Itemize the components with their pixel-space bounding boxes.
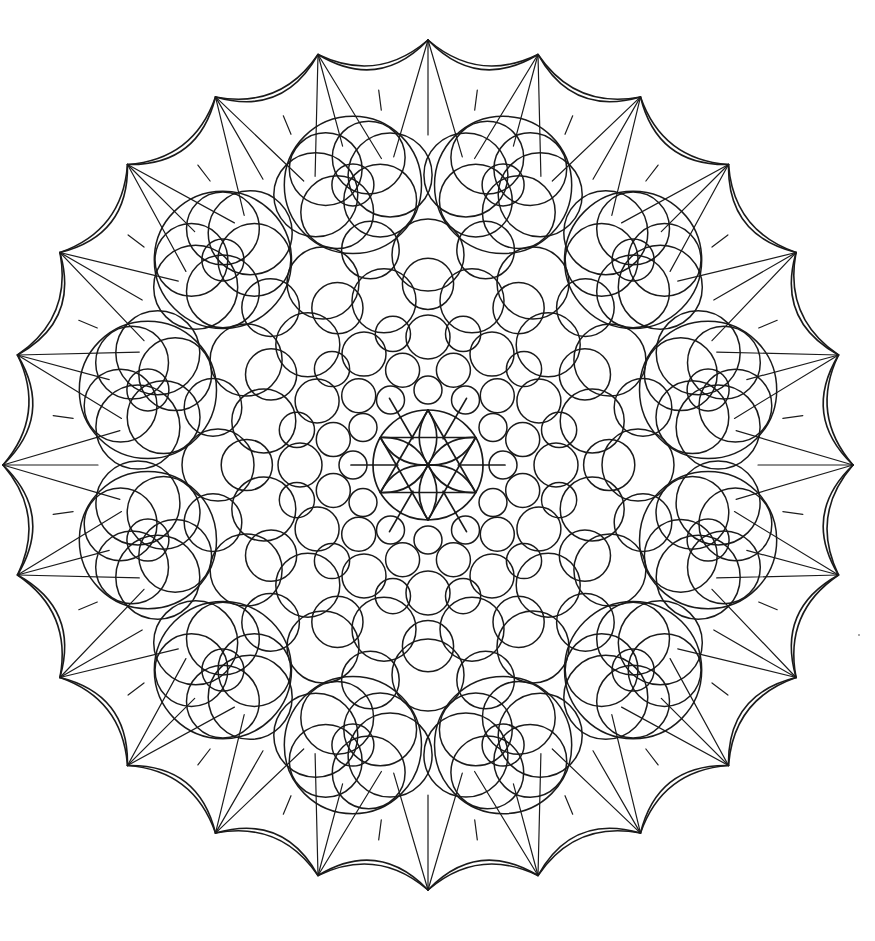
bubble-circle-secondary — [314, 351, 349, 386]
bubble-circle — [342, 554, 386, 598]
bubble-circle-secondary — [242, 594, 300, 652]
scallop-arc — [641, 97, 729, 165]
bubble-circle-secondary — [542, 483, 577, 518]
bubble-circle — [516, 313, 580, 377]
bubble-circle-secondary — [375, 579, 410, 614]
center-inner-spoke — [443, 417, 455, 438]
bubble-circle-secondary — [493, 283, 544, 334]
cluster-petal-circle — [301, 176, 374, 249]
cluster-outer-circle — [284, 677, 421, 814]
web-short-spoke — [198, 749, 210, 765]
web-short-spoke — [646, 749, 658, 765]
web-spoke — [60, 253, 142, 301]
bubble-circle-secondary — [542, 412, 577, 447]
cluster-outer-circle — [435, 116, 572, 253]
cluster-inner-circle — [612, 239, 654, 281]
cluster-petal-circle — [451, 736, 524, 809]
web-short-spoke — [759, 602, 778, 610]
web-thread — [18, 352, 140, 355]
cluster-petal-circle — [139, 519, 212, 592]
cluster-outer-circle — [284, 116, 421, 253]
cluster-petal-circle — [597, 255, 670, 328]
bubble-circle — [386, 353, 420, 387]
web-thread — [736, 431, 853, 465]
mandala-artwork — [0, 0, 875, 941]
cluster-crescent — [676, 385, 760, 469]
paper-speck — [858, 634, 860, 636]
bubble-circle-secondary — [457, 221, 515, 279]
bubble-circle — [276, 313, 340, 377]
web-short-spoke — [283, 796, 291, 815]
cluster-inner-circle — [332, 724, 374, 766]
bubble-circle-secondary — [506, 351, 541, 386]
cluster-petal-circle — [494, 133, 567, 206]
web-thread — [538, 754, 541, 876]
cluster-inner-circle — [612, 649, 654, 691]
bubble-circle — [602, 429, 674, 501]
web-short-spoke — [198, 165, 210, 181]
bubble-circle — [506, 423, 540, 457]
cluster-petal-circle — [289, 133, 362, 206]
bubble-circle — [287, 247, 359, 319]
web-spoke — [714, 253, 796, 301]
cluster-petal-circle — [96, 531, 169, 604]
cluster-petal-circle — [139, 338, 212, 411]
web-thread — [60, 649, 178, 678]
web-short-spoke — [475, 90, 478, 110]
cluster-petal-circle — [301, 681, 374, 754]
bubble-circle — [295, 507, 339, 551]
scallop-inner-arc — [729, 164, 797, 252]
bubble-circle — [574, 324, 646, 396]
center-inner-spoke — [443, 491, 455, 512]
web-short-spoke — [128, 235, 144, 247]
scallop-inner-arc — [729, 678, 797, 766]
scallop-arc — [127, 97, 215, 165]
cluster-inner-circle — [202, 239, 244, 281]
bubble-circle — [406, 315, 450, 359]
web-short-spoke — [565, 796, 573, 815]
bubble-circle-secondary — [506, 543, 541, 578]
bubble-circle — [342, 332, 386, 376]
bubble-circle-secondary — [446, 316, 481, 351]
web-thread — [60, 253, 178, 282]
bubble-circle-secondary — [402, 258, 453, 309]
cluster-petal-circle — [482, 681, 555, 754]
web-short-spoke — [712, 235, 728, 247]
cluster-petal-circle — [688, 326, 761, 399]
cluster-crescent — [348, 713, 432, 797]
web-thread — [60, 253, 144, 341]
scallop-inner-arc — [641, 97, 729, 165]
bubble-circle — [392, 639, 464, 711]
web-thread — [216, 97, 304, 181]
cluster-petal-circle — [155, 224, 228, 297]
bubble-circle — [506, 473, 540, 507]
web-short-spoke — [475, 820, 478, 840]
cluster-outer-circle — [640, 321, 777, 458]
bubble-circle-secondary — [314, 543, 349, 578]
bubble-circle-secondary — [312, 596, 363, 647]
web-short-spoke — [379, 820, 382, 840]
scallop-inner-arc — [641, 766, 729, 834]
cluster-petal-circle — [84, 369, 157, 442]
bubble-circle-secondary — [184, 379, 242, 437]
bubble-circle-secondary — [342, 221, 400, 279]
cluster-petal-circle — [597, 192, 670, 265]
web-short-spoke — [712, 683, 728, 695]
bubble-circle-secondary — [614, 379, 672, 437]
cluster-petal-circle — [688, 531, 761, 604]
center-inner-spoke — [401, 417, 413, 438]
web-spoke — [661, 698, 728, 765]
cluster-inner-circle — [127, 369, 169, 411]
bubble-circle-secondary — [402, 621, 453, 672]
web-thread — [712, 253, 796, 341]
cluster-outer-circle — [565, 602, 702, 739]
bubble-circle — [295, 379, 339, 423]
bubble-circle-secondary — [614, 494, 672, 552]
bubble-circle — [574, 534, 646, 606]
bubble-circle — [436, 543, 470, 577]
bubble-circle — [316, 423, 350, 457]
cluster-crescent — [96, 385, 180, 469]
cluster-petal-circle — [597, 602, 670, 675]
bubble-circle — [406, 571, 450, 615]
web-thread — [3, 465, 120, 499]
